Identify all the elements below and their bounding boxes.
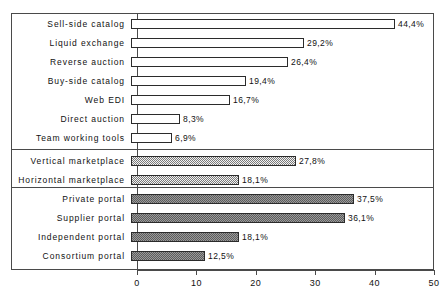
bar-row: Web EDI16,7% xyxy=(11,90,434,109)
bar-row: Team working tools6,9% xyxy=(11,128,434,147)
axis-tick-label: 30 xyxy=(310,278,321,289)
bar-value-label: 18,1% xyxy=(242,232,268,242)
bar-row: Private portal37,5% xyxy=(11,189,434,208)
bar[interactable] xyxy=(131,57,288,67)
bar-zone: 27,8% xyxy=(131,151,434,170)
bar[interactable] xyxy=(131,38,304,48)
category-label: Consortium portal xyxy=(11,251,131,261)
bar[interactable] xyxy=(131,156,296,166)
bar-zone: 29,2% xyxy=(131,33,434,52)
bar-zone: 37,5% xyxy=(131,189,434,208)
axis-tick xyxy=(315,270,316,275)
bar-zone: 8,3% xyxy=(131,109,434,128)
category-label: Direct auction xyxy=(11,114,131,124)
category-label: Web EDI xyxy=(11,95,131,105)
bar[interactable] xyxy=(131,232,239,242)
bar-value-label: 27,8% xyxy=(299,156,325,166)
bar-value-label: 12,5% xyxy=(208,251,234,261)
bar[interactable] xyxy=(131,95,230,105)
bar-value-label: 16,7% xyxy=(233,95,259,105)
bar-value-label: 44,4% xyxy=(398,19,424,29)
axis-tick xyxy=(137,270,138,275)
axis-tick-label: 40 xyxy=(369,278,380,289)
bar[interactable] xyxy=(131,175,239,185)
bar-value-label: 8,3% xyxy=(183,114,204,124)
bar-zone: 18,1% xyxy=(131,227,434,246)
category-label: Buy-side catalog xyxy=(11,76,131,86)
bar[interactable] xyxy=(131,251,205,261)
category-label: Reverse auction xyxy=(11,57,131,67)
bar-zone: 36,1% xyxy=(131,208,434,227)
bar[interactable] xyxy=(131,213,345,223)
category-label: Sell-side catalog xyxy=(11,19,131,29)
bar-row: Independent portal18,1% xyxy=(11,227,434,246)
category-label: Vertical marketplace xyxy=(11,156,131,166)
bar-row: Reverse auction26,4% xyxy=(11,52,434,71)
category-label: Private portal xyxy=(11,194,131,204)
value-axis xyxy=(137,270,434,271)
bar-zone: 26,4% xyxy=(131,52,434,71)
bar-value-label: 36,1% xyxy=(348,213,374,223)
category-label: Horizontal marketplace xyxy=(11,175,131,185)
bar-value-label: 18,1% xyxy=(242,175,268,185)
bar-zone: 12,5% xyxy=(131,246,434,265)
bar-row: Liquid exchange29,2% xyxy=(11,33,434,52)
bar-value-label: 29,2% xyxy=(307,38,333,48)
bar-zone: 16,7% xyxy=(131,90,434,109)
bar-zone: 19,4% xyxy=(131,71,434,90)
bar-zone: 6,9% xyxy=(131,128,434,147)
bar[interactable] xyxy=(131,194,354,204)
bar-value-label: 19,4% xyxy=(249,76,275,86)
bar[interactable] xyxy=(131,19,395,29)
axis-tick xyxy=(375,270,376,275)
axis-tick-label: 0 xyxy=(134,278,140,289)
bar[interactable] xyxy=(131,76,246,86)
bar-zone: 18,1% xyxy=(131,170,434,189)
axis-tick xyxy=(256,270,257,275)
bar-row: Direct auction8,3% xyxy=(11,109,434,128)
bar-row: Consortium portal12,5% xyxy=(11,246,434,265)
bar-row: Vertical marketplace27,8% xyxy=(11,151,434,170)
bar-row: Supplier portal36,1% xyxy=(11,208,434,227)
bar-value-label: 6,9% xyxy=(175,133,196,143)
axis-tick xyxy=(196,270,197,275)
bar[interactable] xyxy=(131,133,172,143)
group-separator-1 xyxy=(11,149,434,150)
axis-tick-label: 20 xyxy=(250,278,261,289)
bar-row: Sell-side catalog44,4% xyxy=(11,14,434,33)
category-label: Team working tools xyxy=(11,133,131,143)
category-label: Supplier portal xyxy=(11,213,131,223)
bar[interactable] xyxy=(131,114,180,124)
bar-value-label: 26,4% xyxy=(291,57,317,67)
bar-row: Horizontal marketplace18,1% xyxy=(11,170,434,189)
axis-tick-label: 50 xyxy=(428,278,439,289)
bar-value-label: 37,5% xyxy=(357,194,383,204)
category-label: Liquid exchange xyxy=(11,38,131,48)
axis-tick xyxy=(434,270,435,275)
bar-row: Buy-side catalog19,4% xyxy=(11,71,434,90)
bar-zone: 44,4% xyxy=(131,14,434,33)
bar-chart: Sell-side catalog44,4%Liquid exchange29,… xyxy=(0,0,447,296)
axis-tick-label: 10 xyxy=(191,278,202,289)
category-label: Independent portal xyxy=(11,232,131,242)
